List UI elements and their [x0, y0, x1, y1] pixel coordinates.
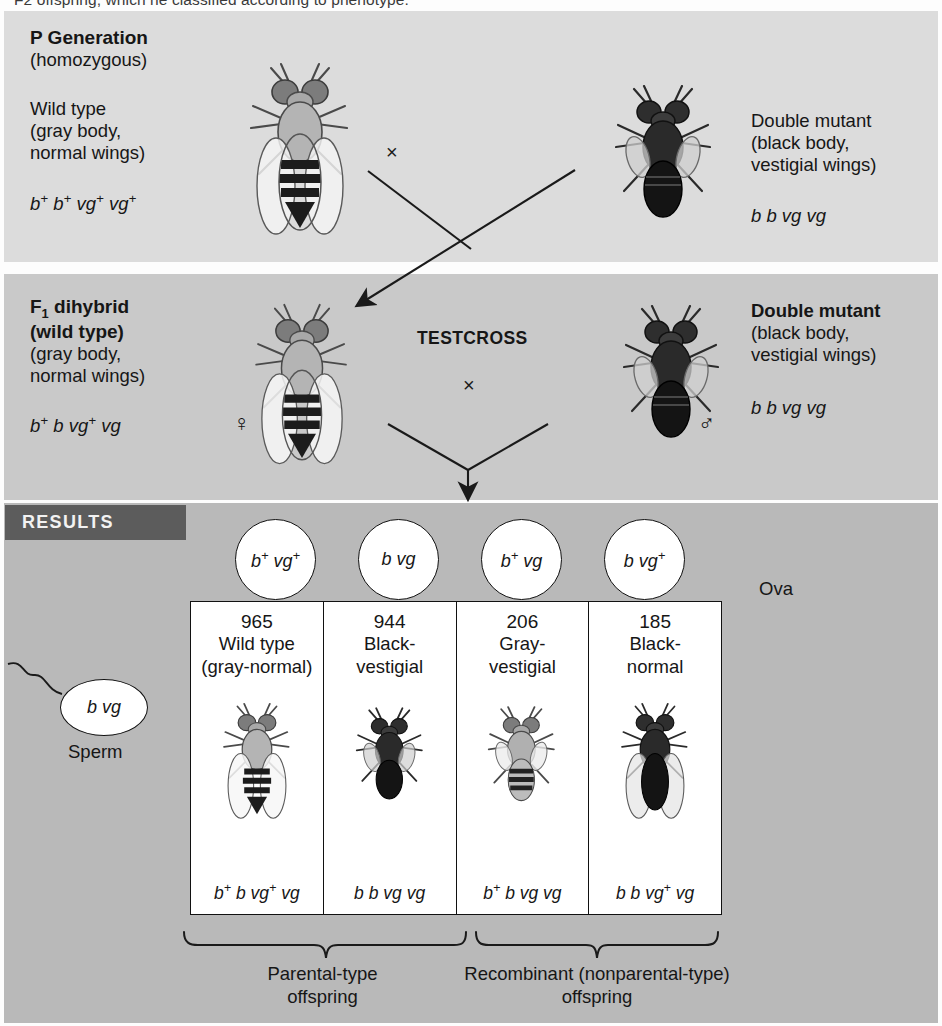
recombinant-label-1: Recombinant (nonparental-type) [452, 963, 742, 986]
offspring-cell-2: 944 Black- vestigial b b vg [324, 602, 457, 914]
testcross-label: TESTCROSS [417, 328, 528, 349]
offspring-cell-4: 185 Black- normal b b vg+ v [589, 602, 721, 914]
f1-dihybrid-title-1: F1 dihybrid [30, 296, 145, 321]
offspring-2-count: 944 [374, 610, 406, 633]
offspring-4-count: 185 [639, 610, 671, 633]
offspring-3-fly-icon [486, 697, 558, 817]
ovum-1: b+ vg+ [235, 519, 316, 600]
p-wild-type-desc-2: normal wings) [30, 142, 145, 164]
offspring-2-fly-icon [354, 697, 426, 815]
p-generation-subtitle: (homozygous) [30, 49, 148, 71]
f1-dihybrid-desc-2: normal wings) [30, 365, 145, 387]
offspring-3-name: Gray- vestigial [489, 633, 556, 678]
f1-double-mutant-genotype: b b vg vg [751, 397, 881, 419]
parental-group-label: Parental-type offspring [190, 963, 455, 1008]
f1-dihybrid-desc-1: (gray body, [30, 343, 145, 365]
offspring-1-fly-icon [220, 697, 294, 829]
f1-dihybrid-genotype: b+ b vg+ vg [30, 413, 145, 437]
p-cross-symbol: × [386, 142, 398, 162]
p-wild-type-desc-1: (gray body, [30, 120, 145, 142]
ovum-3: b+ vg [481, 519, 562, 600]
offspring-4-name-1: Black- [627, 633, 684, 656]
f1-dihybrid-block: F1 dihybrid (wild type) (gray body, norm… [30, 296, 145, 437]
offspring-4-name-2: normal [627, 656, 684, 679]
p-double-mutant-desc-2: vestigial wings) [751, 154, 876, 176]
caption-text: F2 offspring, which he classified accord… [0, 0, 942, 9]
offspring-1-name-1: Wild type [201, 633, 312, 656]
ovum-4-genotype: b vg+ [624, 548, 666, 572]
f1-double-mutant-desc-1: (black body, [751, 322, 881, 344]
parental-brace [180, 928, 470, 962]
p-wild-type-genotype: b+ b+ vg+ vg+ [30, 191, 145, 215]
offspring-3-genotype: b+ b vg vg [457, 881, 589, 904]
sperm-genotype: b vg [87, 697, 121, 718]
p-wild-type-block: Wild type (gray body, normal wings) b+ b… [30, 98, 145, 215]
f1-double-mutant-title: Double mutant [751, 300, 881, 322]
p-double-mutant-genotype: b b vg vg [751, 205, 876, 227]
top-caption-cutoff: F2 offspring, which he classified accord… [0, 0, 942, 11]
recombinant-group-label: Recombinant (nonparental-type) offspring [452, 963, 742, 1008]
ovum-3-genotype: b+ vg [501, 548, 543, 572]
f1-dihybrid-fly-icon [248, 303, 356, 471]
offspring-2-name-1: Black- [356, 633, 423, 656]
ovum-1-genotype: b+ vg+ [251, 548, 300, 572]
f1-double-mutant-desc-2: vestigial wings) [751, 344, 881, 366]
parental-label-1: Parental-type [190, 963, 455, 986]
offspring-cell-3: 206 Gray- vestigial [457, 602, 590, 914]
ovum-4: b vg+ [604, 519, 685, 600]
p-wild-type-fly-icon [245, 62, 355, 242]
sperm-cell: b vg [60, 679, 148, 736]
offspring-3-count: 206 [507, 610, 539, 633]
p-double-mutant-name: Double mutant [751, 110, 876, 132]
f1-cross-symbol: × [463, 375, 475, 395]
offspring-1-genotype: b+ b vg+ vg [191, 881, 323, 904]
offspring-table: 965 Wild type (gray-normal) [190, 601, 722, 915]
recombinant-brace [472, 928, 722, 962]
results-banner: RESULTS [5, 505, 186, 540]
p-double-mutant-block: Double mutant (black body, vestigial win… [751, 110, 876, 227]
offspring-4-genotype: b b vg+ vg [589, 881, 721, 904]
offspring-2-genotype: b b vg vg [324, 883, 456, 904]
f1-double-mutant-block: Double mutant (black body, vestigial win… [751, 300, 881, 419]
testcross-figure: F2 offspring, which he classified accord… [0, 0, 942, 1026]
p-generation-heading: P Generation (homozygous) [30, 27, 148, 71]
f1-double-mutant-fly-icon [620, 305, 724, 445]
recombinant-label-2: offspring [452, 986, 742, 1009]
offspring-2-name: Black- vestigial [356, 633, 423, 678]
p-generation-title: P Generation [30, 27, 148, 49]
p-wild-type-name: Wild type [30, 98, 145, 120]
ovum-2: b vg [358, 519, 439, 600]
results-banner-label: RESULTS [22, 512, 114, 533]
offspring-2-name-2: vestigial [356, 656, 423, 679]
ovum-2-genotype: b vg [381, 549, 415, 570]
p-double-mutant-fly-icon [612, 85, 716, 225]
offspring-1-name: Wild type (gray-normal) [201, 633, 312, 678]
f1-dihybrid-title-2: (wild type) [30, 321, 145, 343]
ova-label: Ova [759, 578, 793, 600]
offspring-cell-1: 965 Wild type (gray-normal) [191, 602, 324, 914]
p-double-mutant-desc-1: (black body, [751, 132, 876, 154]
offspring-1-name-2: (gray-normal) [201, 656, 312, 679]
sperm-label: Sperm [68, 741, 123, 763]
offspring-1-count: 965 [241, 610, 273, 633]
parental-label-2: offspring [190, 986, 455, 1009]
offspring-3-name-2: vestigial [489, 656, 556, 679]
offspring-4-fly-icon [618, 697, 692, 829]
offspring-4-name: Black- normal [627, 633, 684, 678]
offspring-3-name-1: Gray- [489, 633, 556, 656]
